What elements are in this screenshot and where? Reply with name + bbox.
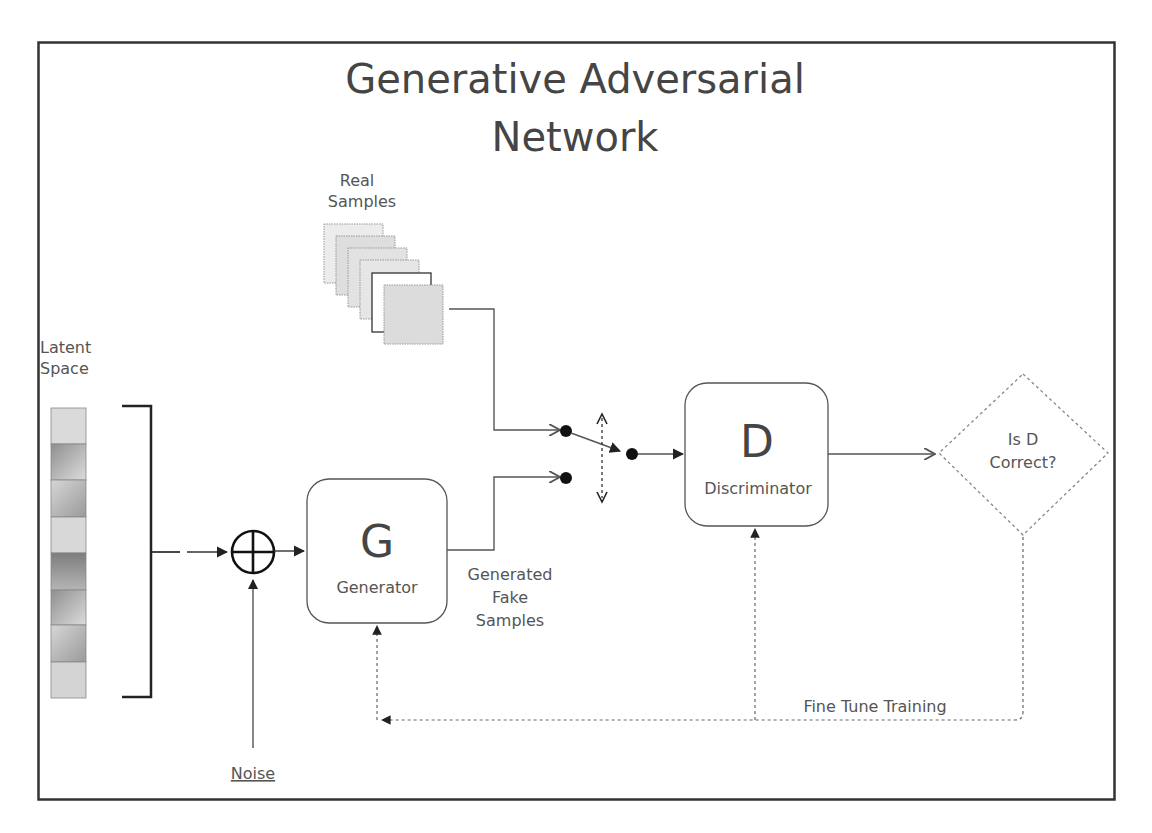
real-samples-connector bbox=[449, 309, 560, 430]
gan-diagram: Generative Adversarial Network Real Samp… bbox=[0, 0, 1152, 833]
latent-cell-1 bbox=[51, 408, 86, 444]
switch-terminal-fake bbox=[560, 472, 572, 484]
generator-label: Generator bbox=[336, 578, 418, 597]
decision-line1: Is D bbox=[1008, 430, 1038, 449]
diagram-title-line2: Network bbox=[491, 114, 659, 160]
latent-space-group: Latent Space bbox=[40, 338, 91, 698]
noise-label: Noise bbox=[231, 764, 275, 783]
latent-bracket bbox=[122, 406, 151, 697]
generated-samples-line1: Generated bbox=[468, 565, 553, 584]
real-samples-group: Real Samples bbox=[324, 171, 443, 344]
latent-cell-3 bbox=[51, 480, 86, 517]
switch-lever bbox=[571, 433, 620, 451]
input-switch[interactable] bbox=[560, 414, 638, 502]
latent-cell-5 bbox=[51, 553, 86, 590]
circle-plus-icon bbox=[232, 531, 274, 573]
latent-cell-7 bbox=[51, 625, 86, 662]
latent-cell-2 bbox=[51, 444, 86, 480]
real-sample-6 bbox=[384, 285, 443, 344]
switch-terminal-real bbox=[560, 425, 572, 437]
decision-line2: Correct? bbox=[990, 453, 1057, 472]
latent-space-label-line1: Latent bbox=[40, 338, 91, 357]
generator-letter: G bbox=[360, 516, 394, 567]
real-samples-label-line2: Samples bbox=[328, 192, 396, 211]
feedback-label: Fine Tune Training bbox=[803, 697, 946, 716]
discriminator-letter: D bbox=[740, 416, 774, 467]
diagram-title-line1: Generative Adversarial bbox=[345, 56, 805, 102]
generated-samples-line2: Fake bbox=[492, 588, 528, 607]
latent-cell-4 bbox=[51, 517, 86, 553]
latent-cell-6 bbox=[51, 590, 86, 625]
switch-output-terminal bbox=[626, 448, 638, 460]
latent-cell-8 bbox=[51, 662, 86, 698]
generator-connector bbox=[447, 477, 560, 550]
real-samples-label-line1: Real bbox=[340, 171, 375, 190]
generated-samples-line3: Samples bbox=[476, 611, 544, 630]
latent-space-label-line2: Space bbox=[40, 359, 89, 378]
discriminator-label: Discriminator bbox=[704, 479, 812, 498]
